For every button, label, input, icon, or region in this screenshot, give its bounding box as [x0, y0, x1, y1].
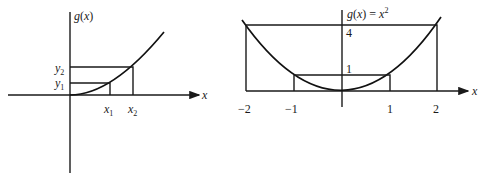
left-x-axis-label: x — [201, 88, 208, 102]
right-y-axis-label: g(x) = x2 — [347, 6, 388, 21]
x-tick-2: 2 — [433, 102, 439, 116]
y-tick-1: 1 — [346, 62, 352, 76]
x-tick-neg1: −1 — [285, 102, 298, 116]
left-graph: g(x) x y2 y1 x1 x2 — [8, 9, 208, 173]
y2-label: y2 — [54, 61, 64, 77]
left-curve — [70, 32, 164, 95]
x-tick-neg2: −2 — [238, 102, 251, 116]
x-tick-1: 1 — [387, 102, 393, 116]
x1-label: x1 — [103, 102, 113, 118]
y-tick-4: 4 — [346, 26, 352, 40]
y2-x2-guide — [70, 67, 133, 95]
right-x-axis-label: x — [471, 84, 478, 98]
figure-canvas: g(x) x y2 y1 x1 x2 g(x) = x2 4 1 x −2 −1… — [0, 0, 482, 187]
left-y-axis-label: g(x) — [74, 9, 93, 23]
right-graph: g(x) = x2 4 1 x −2 −1 1 2 — [238, 6, 478, 116]
y1-label: y1 — [54, 76, 64, 92]
x2-label: x2 — [127, 102, 137, 118]
